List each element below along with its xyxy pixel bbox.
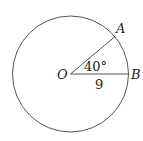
center-label: O (57, 67, 68, 82)
point-b-label: B (130, 67, 141, 82)
angle-label: 40° (84, 59, 107, 74)
point-a-label: A (115, 21, 125, 36)
circle-diagram: O A B 40° 9 (0, 0, 143, 141)
radius-label: 9 (95, 77, 103, 92)
